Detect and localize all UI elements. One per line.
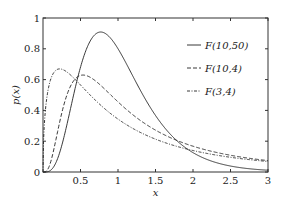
- y-tick-label: 0.6: [24, 74, 40, 85]
- x-tick-label: 2.5: [223, 175, 239, 186]
- legend-label: F(10,4): [204, 63, 242, 74]
- x-tick-label: 1: [115, 175, 121, 186]
- series-line-f-3-4: [43, 69, 268, 172]
- x-axis-label: x: [153, 187, 159, 198]
- y-tick-label: 0.2: [24, 136, 40, 147]
- x-tick-label: 0.5: [73, 175, 89, 186]
- legend-label: F(3,4): [204, 86, 236, 97]
- y-tick-label: 0.8: [24, 43, 40, 54]
- y-tick-label: 0.4: [24, 105, 40, 116]
- x-tick-label: 2: [190, 175, 196, 186]
- x-tick-label: 3: [265, 175, 271, 186]
- legend: F(10,50)F(10,4)F(3,4): [187, 40, 248, 97]
- y-tick-label: 0: [34, 167, 40, 178]
- f-distribution-chart: 0.511.522.53 00.20.40.60.81 x p(x) F(10,…: [0, 0, 283, 204]
- curves: [43, 32, 268, 172]
- x-tick-label: 1.5: [148, 175, 164, 186]
- legend-label: F(10,50): [204, 40, 248, 51]
- series-line-f-10-50: [43, 32, 268, 172]
- y-tick-label: 1: [34, 13, 40, 24]
- y-axis-label: p(x): [10, 85, 21, 105]
